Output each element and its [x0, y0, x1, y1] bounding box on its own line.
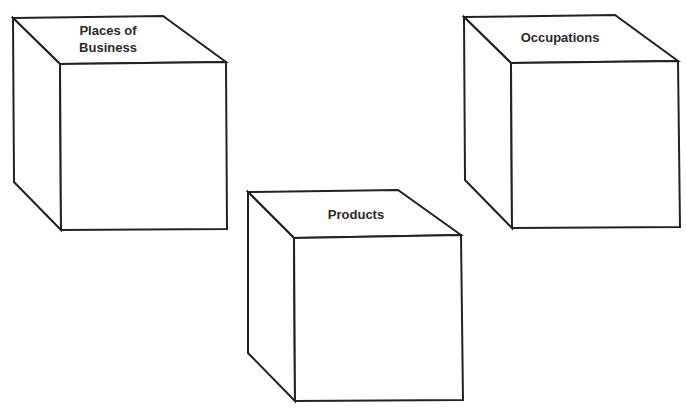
cube-label: Places of — [79, 23, 137, 38]
cube-occupations: Occupations — [464, 15, 680, 228]
cube-label: Occupations — [521, 30, 600, 45]
cube-layer: Places ofBusinessOccupationsProducts — [13, 15, 680, 401]
cube-front-face — [511, 61, 680, 228]
cube-label: Business — [79, 40, 137, 55]
cube-front-face — [60, 62, 227, 230]
cube-places-of-business: Places ofBusiness — [13, 16, 227, 230]
diagram-canvas: Places ofBusinessOccupationsProducts — [0, 0, 686, 418]
cube-label: Products — [328, 207, 384, 222]
cube-products: Products — [248, 190, 463, 401]
cube-front-face — [294, 235, 463, 401]
